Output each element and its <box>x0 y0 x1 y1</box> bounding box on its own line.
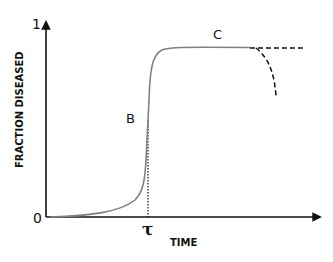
y-tick-0: 0 <box>33 211 42 225</box>
x-tick-tau: τ <box>142 221 153 238</box>
epidemic-curve <box>50 47 250 217</box>
decline-dashed-curve <box>256 48 276 96</box>
y-axis-label: FRACTION DISEASED <box>15 51 25 168</box>
annotation-c: C <box>213 28 222 41</box>
annotation-b: B <box>126 112 135 125</box>
chart-canvas <box>0 0 333 262</box>
y-tick-1: 1 <box>32 17 41 31</box>
x-axis-label: TIME <box>170 238 197 248</box>
